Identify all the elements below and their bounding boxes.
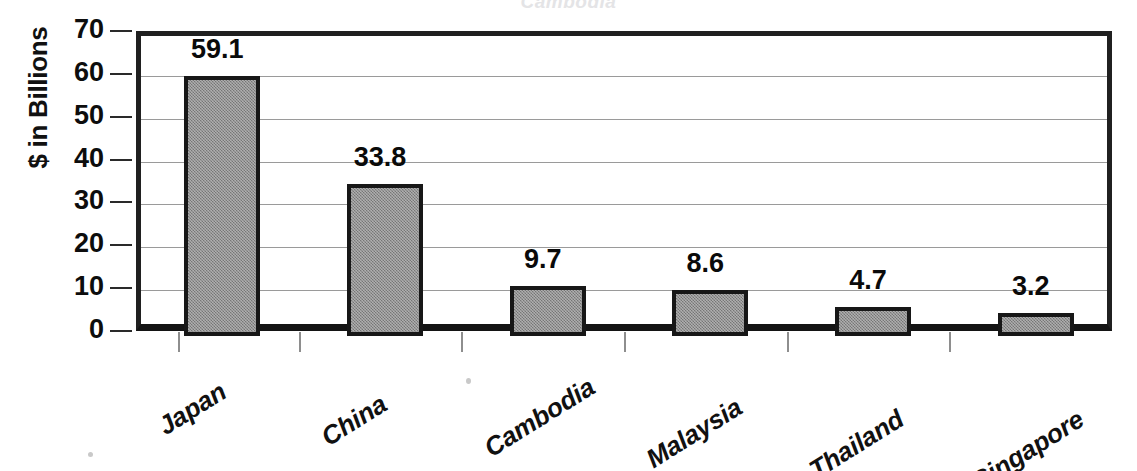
bar[interactable]	[347, 184, 423, 336]
x-tick-mark	[299, 332, 301, 352]
y-tick-label: 50	[74, 102, 104, 129]
gridline	[141, 204, 1107, 205]
gridline	[141, 162, 1107, 163]
y-tick-mark	[110, 73, 132, 75]
x-tick-mark	[461, 332, 463, 352]
bar-value-label: 8.6	[627, 250, 783, 277]
x-category-label: China	[316, 389, 393, 453]
gridline	[141, 119, 1107, 120]
y-tick-mark	[110, 30, 132, 32]
y-tick-mark	[110, 159, 132, 161]
y-tick-mark	[110, 287, 132, 289]
y-tick-mark	[110, 244, 132, 246]
y-tick-label: 30	[74, 187, 104, 214]
x-category-label: Thailand	[804, 404, 910, 471]
bar[interactable]	[835, 307, 911, 336]
y-tick-label: 10	[74, 273, 104, 300]
bar-value-label: 9.7	[465, 246, 621, 273]
y-tick-label: 20	[74, 230, 104, 257]
bar[interactable]	[510, 286, 586, 336]
scan-speck	[466, 378, 471, 384]
y-tick-label: 70	[74, 16, 104, 43]
x-category-label: Singapore	[966, 404, 1089, 471]
x-category-label: Japan	[153, 376, 232, 442]
bar-value-label: 59.1	[139, 36, 295, 63]
x-tick-mark	[178, 332, 180, 352]
x-tick-mark	[949, 332, 951, 352]
y-tick-label: 60	[74, 59, 104, 86]
y-axis-title: $ in Billions	[23, 0, 54, 208]
x-tick-mark	[787, 332, 789, 352]
x-tick-mark	[624, 332, 626, 352]
bar-value-label: 33.8	[302, 144, 458, 171]
gridline	[141, 76, 1107, 77]
y-tick-label: 40	[74, 145, 104, 172]
y-tick-mark	[110, 116, 132, 118]
bar-value-label: 3.2	[953, 273, 1109, 300]
x-category-label: Cambodia	[478, 372, 600, 464]
bar-value-label: 4.7	[790, 267, 946, 294]
bar[interactable]	[998, 313, 1074, 336]
chart-title: Cambodia	[0, 0, 1137, 13]
bar[interactable]	[184, 76, 260, 336]
y-tick-label: 0	[89, 316, 104, 343]
y-tick-mark	[110, 201, 132, 203]
bar[interactable]	[672, 290, 748, 336]
scan-speck	[88, 452, 93, 457]
x-category-label: Malaysia	[641, 392, 748, 471]
gridline	[141, 247, 1107, 248]
y-tick-mark	[110, 330, 132, 332]
bar-chart: Cambodia $ in Billions 010203040506070 5…	[0, 0, 1137, 471]
